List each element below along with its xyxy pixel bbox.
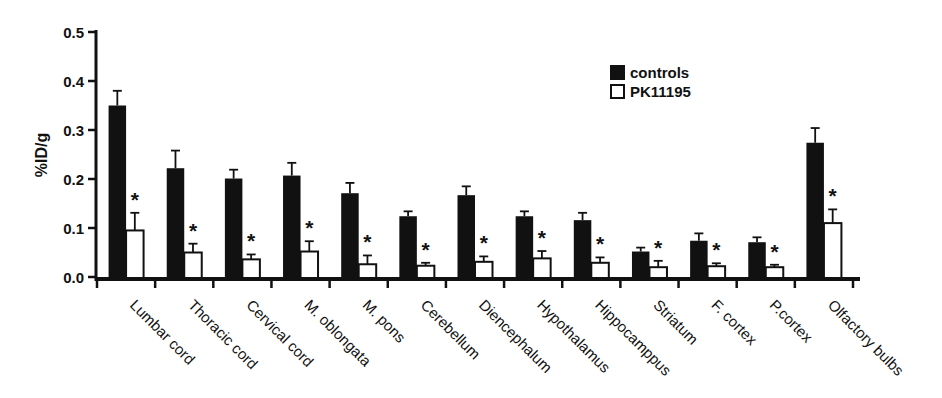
bar-controls — [225, 179, 243, 279]
bar-PK11195 — [824, 223, 842, 279]
bar-controls — [341, 193, 359, 279]
significance-asterisk: * — [363, 230, 372, 253]
legend-swatch-controls — [611, 66, 624, 79]
bar-PK11195 — [184, 253, 202, 280]
category-label: M. pons — [360, 296, 410, 346]
significance-asterisk: * — [131, 188, 140, 211]
y-tick-label: 0.0 — [63, 269, 84, 286]
bar-controls — [690, 241, 708, 279]
bar-PK11195 — [126, 230, 144, 279]
legend-label: controls — [630, 64, 689, 81]
bar-controls — [574, 220, 592, 279]
y-tick-label: 0.5 — [63, 24, 84, 41]
category-label: F. cortex — [708, 296, 760, 348]
bar-controls — [516, 216, 534, 279]
significance-asterisk: * — [480, 231, 489, 254]
significance-asterisk: * — [422, 238, 431, 261]
significance-asterisk: * — [770, 240, 779, 263]
significance-asterisk: * — [305, 216, 314, 239]
bar-PK11195 — [475, 262, 493, 279]
bar-PK11195 — [591, 263, 609, 279]
figure: *************0.00.10.20.30.40.5Lumbar co… — [0, 0, 942, 398]
legend-label: PK11195 — [630, 83, 691, 100]
category-label: Striatum — [650, 296, 702, 348]
bar-PK11195 — [359, 264, 377, 279]
bar-controls — [806, 143, 824, 279]
y-axis-title: %ID/g — [33, 133, 50, 177]
bar-PK11195 — [301, 252, 319, 279]
bar-chart-svg: *************0.00.10.20.30.40.5Lumbar co… — [0, 0, 942, 398]
significance-asterisk: * — [538, 226, 547, 249]
significance-asterisk: * — [247, 229, 256, 252]
y-tick-label: 0.4 — [63, 73, 85, 90]
bar-controls — [458, 195, 476, 279]
bar-controls — [167, 168, 185, 279]
bar-controls — [399, 216, 417, 279]
bar-controls — [283, 176, 301, 279]
bar-PK11195 — [533, 258, 551, 279]
legend-swatch-PK11195 — [611, 85, 624, 98]
bar-controls — [748, 242, 766, 279]
y-tick-label: 0.3 — [63, 122, 84, 139]
bar-controls — [109, 106, 127, 280]
y-tick-label: 0.1 — [63, 220, 84, 237]
significance-asterisk: * — [654, 236, 663, 259]
y-tick-label: 0.2 — [63, 171, 84, 188]
significance-asterisk: * — [189, 219, 198, 242]
category-label: Cerebellum — [418, 296, 484, 362]
bar-controls — [632, 252, 650, 279]
significance-asterisk: * — [829, 184, 838, 207]
category-label: Olfactory bulbs — [825, 296, 908, 379]
significance-asterisk: * — [712, 238, 721, 261]
significance-asterisk: * — [596, 232, 605, 255]
bar-PK11195 — [242, 259, 260, 279]
category-label: P.cortex — [767, 296, 817, 346]
